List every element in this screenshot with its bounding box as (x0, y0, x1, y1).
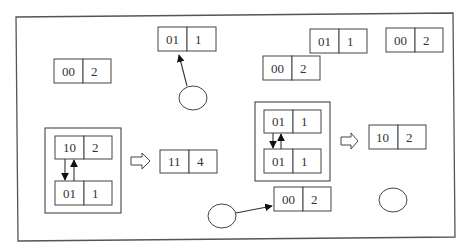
record-key: 01 (318, 34, 331, 49)
record-merge-right-result: 10 2 (369, 125, 426, 149)
record-value: 2 (311, 192, 318, 207)
record-key: 01 (166, 32, 179, 47)
record-key: 01 (272, 154, 285, 169)
record-value: 2 (423, 33, 430, 48)
diagram-canvas: 01 1 00 2 01 1 00 2 00 2 10 (0, 0, 465, 252)
edge-arrow-top (179, 55, 187, 86)
record-bottom-center: 00 2 (274, 187, 331, 211)
record-value: 2 (91, 64, 98, 79)
record-value: 1 (301, 114, 308, 129)
record-top-right-a: 01 1 (310, 29, 367, 53)
record-value: 2 (92, 140, 99, 155)
hollow-right-arrow-icon (131, 153, 150, 169)
record-value: 4 (197, 154, 204, 169)
record-key: 00 (271, 61, 284, 76)
edge-arrow-bottom (236, 206, 272, 213)
group-left-bottom-record: 01 1 (55, 181, 112, 205)
record-value: 1 (301, 154, 308, 169)
record-key: 10 (63, 140, 76, 155)
record-left: 00 2 (54, 59, 111, 83)
record-key: 10 (376, 130, 389, 145)
record-merge-left-result: 11 4 (160, 150, 217, 173)
record-key: 01 (63, 186, 76, 201)
record-mid-right: 00 2 (263, 56, 320, 80)
record-value: 2 (406, 130, 413, 145)
record-key: 00 (282, 192, 295, 207)
record-value: 1 (195, 32, 202, 47)
record-top-right-b: 00 2 (386, 28, 443, 52)
hollow-right-arrow-icon (341, 133, 358, 149)
record-value: 1 (347, 34, 354, 49)
group-right: 01 1 01 1 (255, 102, 330, 181)
circle-node-top (179, 86, 207, 110)
group-left: 10 2 01 1 (45, 128, 121, 213)
record-value: 2 (300, 61, 307, 76)
circle-node-right (379, 188, 407, 212)
record-value: 1 (92, 186, 99, 201)
record-top-center: 01 1 (158, 27, 216, 51)
circle-node-bottom-left (208, 204, 236, 228)
record-key: 00 (62, 64, 75, 79)
group-left-top-record: 10 2 (55, 136, 112, 159)
record-key: 01 (272, 114, 285, 129)
record-key: 00 (394, 33, 407, 48)
record-key: 11 (168, 154, 181, 169)
group-right-bottom-record: 01 1 (264, 149, 321, 173)
group-right-top-record: 01 1 (264, 110, 321, 133)
